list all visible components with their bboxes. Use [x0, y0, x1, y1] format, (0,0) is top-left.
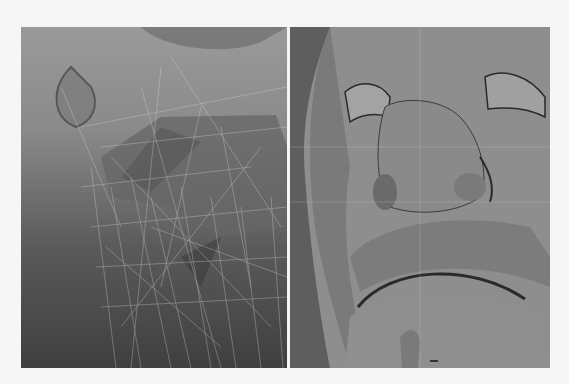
shaded-render-panel [290, 27, 550, 368]
wireframe-mesh-illustration [21, 27, 287, 368]
render-artifact-mark [430, 360, 438, 362]
wireframe-render-panel [21, 27, 287, 368]
shaded-face-illustration [290, 27, 550, 368]
